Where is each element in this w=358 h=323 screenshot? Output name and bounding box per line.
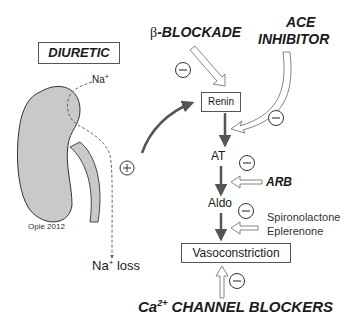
angiotensin-label: AT — [211, 149, 225, 163]
ace-minus-symbol — [269, 111, 284, 126]
beta-blockade-label: β-BLOCKADE — [150, 24, 241, 41]
ureter-shape — [70, 142, 100, 222]
kidney-illustration — [17, 86, 100, 222]
eplerenone-label: Eplerenone — [267, 224, 340, 238]
ace-inhibitor-label: ACE INHIBITOR — [258, 14, 329, 48]
stimulate-symbol — [120, 161, 134, 175]
arb-inhibit-arrow — [231, 176, 262, 188]
beta-blockade-inhibit-arrow — [190, 46, 225, 86]
aldosterone-antagonist-minus-symbol — [239, 204, 254, 219]
spironolactone-label: Spironolactone — [267, 210, 340, 224]
sodium-loss-label: Na+ loss — [92, 258, 140, 273]
vasoconstriction-box: Vasoconstriction — [181, 243, 291, 263]
aldosterone-label: Aldo — [208, 196, 232, 210]
sodium-top-label: Na+ — [92, 73, 109, 85]
credit-label: Opie 2012 — [28, 222, 65, 231]
diuretic-label-box: DIURETIC — [38, 42, 120, 64]
arb-minus-symbol — [240, 156, 255, 171]
renin-box: Renin — [201, 92, 241, 112]
arb-label: ARB — [266, 175, 292, 189]
kidney-to-renin-arrow — [142, 103, 192, 153]
ca-channel-blocker-inhibit-arrow — [216, 266, 228, 298]
ca-channel-blocker-minus-symbol — [230, 274, 245, 289]
kidney-shape — [17, 86, 80, 221]
ca-channel-blockers-label: Ca2+ CHANNEL BLOCKERS — [138, 298, 333, 315]
aldosterone-antagonist-inhibit-arrow — [231, 222, 258, 234]
aldosterone-antagonist-labels: Spironolactone Eplerenone — [267, 210, 340, 238]
diuretic-label: DIURETIC — [48, 45, 109, 60]
beta-blockade-minus-symbol — [176, 63, 191, 78]
